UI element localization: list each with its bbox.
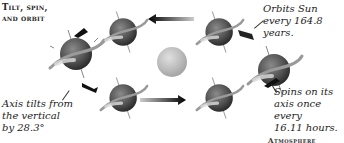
orbit-caption: Orbits Sun every 164.8 years. bbox=[263, 3, 344, 39]
title-line-2: and orbit bbox=[2, 13, 48, 24]
sun-icon bbox=[157, 47, 187, 77]
atmosphere-section-label: Atmosphere bbox=[268, 136, 316, 143]
orbit-arrow-icon-left-top bbox=[74, 28, 88, 38]
diagram-title: Tilt, spin, and orbit bbox=[2, 2, 48, 24]
planet-icon-top-center bbox=[94, 8, 154, 56]
orbit-arrow-icon-left-bottom bbox=[82, 83, 98, 93]
spin-caption: Spins on its axis once every 16.11 hours… bbox=[274, 86, 344, 134]
orbit-arrow-icon-bottom bbox=[140, 95, 186, 105]
orbit-arrow-icon-right-top bbox=[238, 30, 254, 40]
orbit-arrow-icon-top bbox=[148, 14, 194, 24]
planet-icon-bottom-right bbox=[190, 74, 250, 122]
tilt-caption: Axis tilts from the vertical by 28.3° bbox=[2, 98, 73, 134]
title-line-1: Tilt, spin, bbox=[2, 2, 48, 13]
